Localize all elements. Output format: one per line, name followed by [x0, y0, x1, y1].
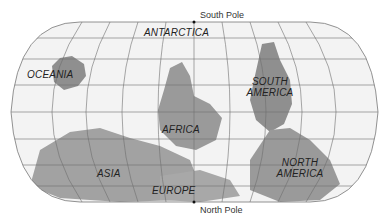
label-south-america: SOUTH AMERICA — [240, 76, 300, 98]
south-pole-marker — [193, 21, 196, 24]
label-asia: ASIA — [97, 168, 121, 179]
label-north-america-line1: NORTH — [270, 157, 330, 168]
label-antarctica: ANTARCTICA — [144, 27, 209, 38]
label-europe: EUROPE — [152, 185, 195, 196]
north-pole-label: North Pole — [200, 205, 243, 215]
label-south-america-line1: SOUTH — [240, 76, 300, 87]
north-pole-marker — [193, 201, 196, 204]
label-south-america-line2: AMERICA — [240, 87, 300, 98]
label-north-america-line2: AMERICA — [270, 168, 330, 179]
label-oceania: OCEANIA — [27, 69, 73, 80]
label-north-america: NORTH AMERICA — [270, 157, 330, 179]
south-pole-label: South Pole — [200, 10, 244, 20]
label-africa: AFRICA — [162, 124, 200, 135]
